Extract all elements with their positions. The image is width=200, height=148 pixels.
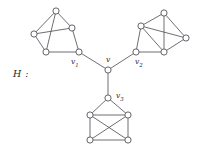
edge-layer	[36, 13, 184, 140]
graph-node	[161, 49, 167, 55]
vertex-label-v2: v2	[135, 58, 143, 68]
graph-node	[138, 23, 144, 29]
graph-node-v2	[133, 49, 139, 55]
graph-edge	[82, 54, 106, 69]
graph-node	[125, 112, 131, 118]
graph-node	[31, 31, 37, 37]
graph-node	[69, 25, 75, 31]
vertex-label-v2-sub: 2	[139, 62, 142, 68]
node-layer	[31, 8, 189, 143]
graph-figure: H : v v1 v2 v3	[0, 0, 200, 148]
graph-name-label: H :	[13, 68, 29, 79]
graph-edge	[110, 100, 125, 113]
graph-edge	[144, 15, 162, 25]
graph-edge	[166, 15, 184, 35]
graph-edge	[137, 29, 141, 49]
graph-node-v3	[105, 95, 111, 101]
graph-node-v1	[76, 49, 82, 55]
vertex-label-v-text: v	[106, 55, 110, 64]
graph-edge	[36, 37, 45, 50]
graph-canvas	[0, 0, 200, 148]
graph-node	[161, 10, 167, 16]
graph-edge	[167, 40, 184, 51]
vertex-label-v3: v3	[116, 92, 124, 102]
graph-edge	[92, 100, 106, 113]
graph-node	[183, 35, 189, 41]
graph-node	[53, 8, 59, 14]
graph-edge	[143, 28, 162, 49]
graph-node	[43, 49, 49, 55]
vertex-label-v3-sub: 3	[120, 96, 123, 102]
vertex-label-v1-sub: 1	[75, 62, 78, 68]
graph-edge	[111, 54, 134, 69]
graph-node	[87, 137, 93, 143]
graph-node	[125, 137, 131, 143]
vertex-label-v: v	[106, 56, 110, 64]
graph-edge	[73, 31, 78, 49]
graph-edge	[58, 13, 70, 25]
graph-node-v	[105, 67, 111, 73]
graph-node	[87, 112, 93, 118]
graph-edge	[37, 28, 69, 33]
graph-edge	[36, 13, 54, 32]
vertex-label-v1: v1	[71, 58, 79, 68]
